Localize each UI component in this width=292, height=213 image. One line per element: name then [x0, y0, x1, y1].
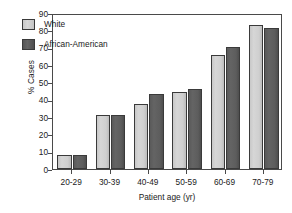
x-axis-tick-label: 20-29: [51, 178, 91, 187]
bar: [264, 28, 279, 169]
chart-legend: WhiteAfrican-American: [22, 16, 108, 56]
bar: [188, 89, 203, 169]
y-axis-tick-label: 60: [22, 62, 48, 70]
y-axis-tick-label: 40: [22, 96, 48, 104]
y-axis-tick-label: 0: [22, 166, 48, 174]
bar: [226, 47, 241, 169]
y-axis-tick-label: 50: [22, 79, 48, 87]
y-axis-tick-label: 30: [22, 114, 48, 122]
bar: [211, 55, 226, 169]
x-axis-tick-mark: [225, 170, 226, 174]
x-axis-label: Patient age (yr): [52, 192, 282, 202]
y-axis-tick-label: 20: [22, 131, 48, 139]
x-axis-tick-mark: [71, 170, 72, 174]
x-axis-tick-label: 50-59: [166, 178, 206, 187]
x-axis-tick-mark: [186, 170, 187, 174]
x-axis-tick-mark: [110, 170, 111, 174]
bar: [172, 92, 187, 169]
x-axis-tick-mark: [263, 170, 264, 174]
bar: [73, 155, 88, 169]
y-axis-tick-label: 10: [22, 148, 48, 156]
legend-label: White: [44, 20, 65, 29]
legend-swatch-icon: [22, 19, 35, 30]
bar: [134, 104, 149, 169]
legend-item: White: [22, 16, 108, 32]
legend-swatch-icon: [22, 39, 35, 50]
bar: [249, 25, 264, 169]
figure: % Cases 9080706050403020100 20-2930-3940…: [0, 0, 292, 213]
bar: [111, 115, 126, 169]
x-axis-tick-label: 30-39: [90, 178, 130, 187]
bar: [96, 115, 111, 169]
y-axis-tick-mark: [48, 170, 52, 171]
legend-label: African-American: [44, 40, 108, 49]
x-axis-tick-label: 60-69: [205, 178, 245, 187]
legend-item: African-American: [22, 36, 108, 52]
bar: [149, 94, 164, 169]
x-axis-tick-label: 40-49: [128, 178, 168, 187]
x-axis-tick-mark: [148, 170, 149, 174]
x-axis-tick-label: 70-79: [243, 178, 283, 187]
bar: [57, 155, 72, 169]
